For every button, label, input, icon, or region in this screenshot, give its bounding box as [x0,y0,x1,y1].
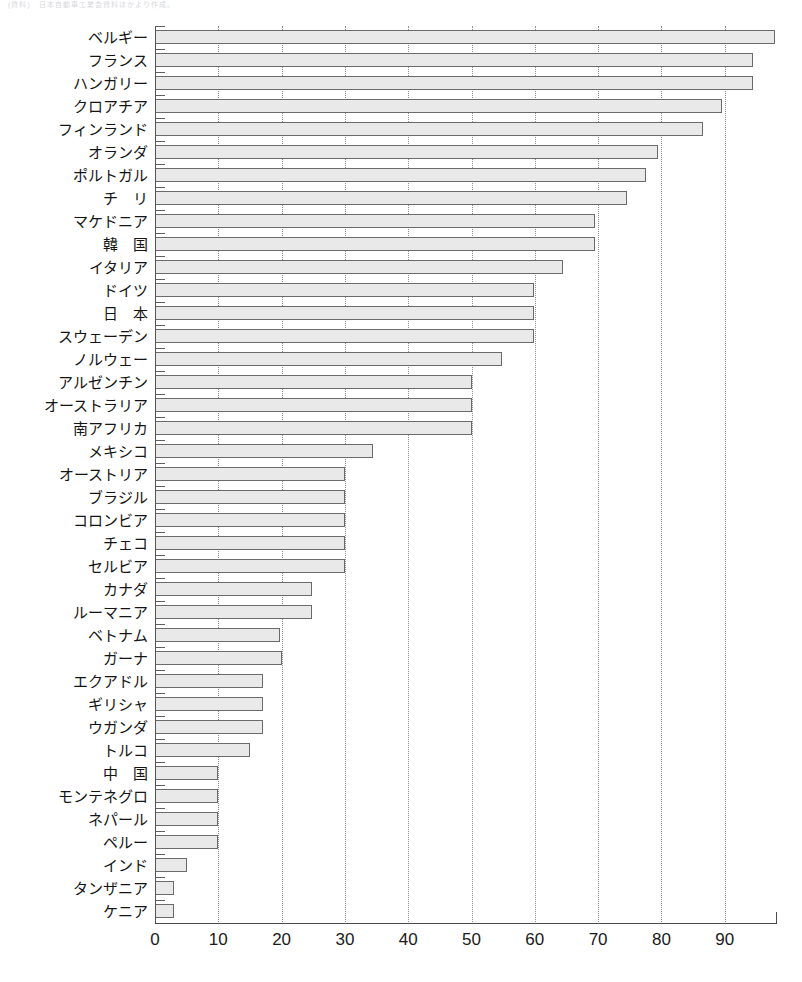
bar [155,513,345,527]
category-label: チ リ [0,187,148,210]
y-axis-tick [155,348,165,349]
bar [155,582,312,596]
bar [155,30,775,44]
y-axis-tick [155,670,165,671]
y-axis-tick [155,417,165,418]
bar-row [155,808,777,831]
bar-row [155,831,777,854]
bar-row [155,26,777,49]
y-axis-tick [155,739,165,740]
category-label: モンテネグロ [0,785,148,808]
y-axis-tick [155,325,165,326]
y-axis-tick [155,164,165,165]
category-label: コロンビア [0,509,148,532]
x-tick-label: 90 [705,930,745,950]
y-axis-tick [155,486,165,487]
bar-row [155,233,777,256]
category-label: タンザニア [0,877,148,900]
y-axis-tick [155,693,165,694]
bar [155,743,250,757]
bar [155,467,345,481]
category-label: エクアドル [0,670,148,693]
category-label: ケニア [0,900,148,923]
bar-row [155,118,777,141]
bar [155,76,753,90]
y-axis-tick [155,118,165,119]
bar-row [155,302,777,325]
y-axis-tick [155,371,165,372]
bar [155,329,534,343]
bar-row [155,532,777,555]
category-label: オーストリア [0,463,148,486]
y-axis-tick [155,279,165,280]
y-axis-tick [155,532,165,533]
bar-row [155,348,777,371]
category-label: アルゼンチン [0,371,148,394]
y-axis-tick [155,394,165,395]
bar-row [155,440,777,463]
y-axis-tick [155,900,165,901]
y-axis-tick [155,785,165,786]
y-axis-tick [155,509,165,510]
bar [155,812,218,826]
category-label: オランダ [0,141,148,164]
category-label: ドイツ [0,279,148,302]
y-axis-tick [155,808,165,809]
category-label: ギリシャ [0,693,148,716]
y-axis-line [155,26,156,924]
bar-row [155,95,777,118]
bar-row [155,762,777,785]
bar [155,858,187,872]
y-axis-tick [155,647,165,648]
bar-row [155,394,777,417]
category-label: ウガンダ [0,716,148,739]
bar-row [155,417,777,440]
bar [155,352,502,366]
x-tick-label: 80 [641,930,681,950]
y-axis-tick [155,854,165,855]
bar-row [155,785,777,808]
bar [155,260,563,274]
category-label: ガーナ [0,647,148,670]
bar [155,283,534,297]
y-axis-tick [155,877,165,878]
category-label: クロアチア [0,95,148,118]
bar-row [155,900,777,923]
y-axis-tick [155,187,165,188]
category-label: ルーマニア [0,601,148,624]
bar-row [155,210,777,233]
bar [155,881,174,895]
bar-row [155,325,777,348]
bar [155,168,646,182]
category-label: ペルー [0,831,148,854]
bar [155,651,282,665]
category-label: イタリア [0,256,148,279]
y-axis-tick [155,762,165,763]
y-axis-tick [155,578,165,579]
y-axis-tick [155,233,165,234]
bar [155,398,472,412]
bar [155,559,345,573]
category-label: カナダ [0,578,148,601]
category-label: ベルギー [0,26,148,49]
y-axis-tick [155,831,165,832]
bar [155,214,595,228]
y-axis-tick [155,463,165,464]
bar-row [155,509,777,532]
horizontal-bar-chart: 0102030405060708090ベルギーフランスハンガリークロアチアフィン… [0,0,802,982]
x-tick-label: 10 [198,930,238,950]
y-axis-tick [155,141,165,142]
x-axis-line [155,923,777,924]
bar [155,421,472,435]
bar-row [155,578,777,601]
bar-row [155,164,777,187]
y-axis-tick [155,26,165,27]
category-label: 中 国 [0,762,148,785]
bar-row [155,647,777,670]
bar [155,145,658,159]
x-tick-label: 20 [262,930,302,950]
bar [155,191,627,205]
bar-row [155,670,777,693]
bar-row [155,555,777,578]
bar-row [155,256,777,279]
